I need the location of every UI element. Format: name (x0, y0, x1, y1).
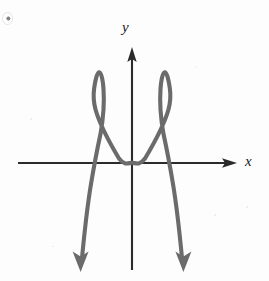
y-axis (127, 47, 136, 270)
polynomial-graph-figure: y x (0, 0, 269, 281)
plot-canvas (0, 0, 269, 281)
x-axis-label: x (245, 154, 252, 169)
y-axis-label: y (122, 20, 129, 35)
